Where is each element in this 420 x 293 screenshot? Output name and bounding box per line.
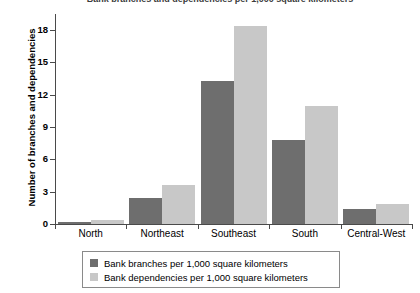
chart-title: Bank branches and dependencies per 1,000… <box>55 0 385 4</box>
y-tick-label: 0 <box>26 219 48 229</box>
bar <box>91 220 124 224</box>
y-tick-label: 12 <box>26 90 48 100</box>
y-axis-line <box>55 14 56 224</box>
legend-item-branches: Bank branches per 1,000 square kilometer… <box>90 256 332 270</box>
bar <box>272 140 305 224</box>
bar-group <box>201 14 267 224</box>
legend-label-dependencies: Bank dependencies per 1,000 square kilom… <box>104 272 308 283</box>
y-tick-label: 6 <box>26 154 48 164</box>
bar <box>162 185 195 224</box>
chart-legend: Bank branches per 1,000 square kilometer… <box>82 251 340 288</box>
y-tick-label: 18 <box>26 25 48 35</box>
y-tick <box>50 95 55 96</box>
y-tick <box>50 127 55 128</box>
bar-group <box>343 14 409 224</box>
bar <box>343 209 376 224</box>
y-tick <box>50 159 55 160</box>
x-tick-label: Northeast <box>126 228 197 239</box>
y-tick-label: 9 <box>26 122 48 132</box>
y-tick-label: 15 <box>26 57 48 67</box>
x-axis-line <box>55 224 412 225</box>
bar-group <box>129 14 195 224</box>
y-tick <box>50 192 55 193</box>
chart-figure: Bank branches and dependencies per 1,000… <box>0 0 420 293</box>
x-tick-label: South <box>269 228 340 239</box>
legend-label-branches: Bank branches per 1,000 square kilometer… <box>104 258 288 269</box>
bar <box>305 106 338 224</box>
bar-group <box>58 14 124 224</box>
y-tick-label: 3 <box>26 187 48 197</box>
bar <box>201 81 234 224</box>
bar <box>234 26 267 224</box>
x-tick <box>412 224 413 229</box>
x-tick-label: Southeast <box>198 228 269 239</box>
plot-area: 0369121518 NorthNortheastSoutheastSouthC… <box>55 14 412 224</box>
legend-item-dependencies: Bank dependencies per 1,000 square kilom… <box>90 270 332 284</box>
bar <box>129 198 162 224</box>
y-tick <box>50 62 55 63</box>
bar <box>376 204 409 224</box>
bar-group <box>272 14 338 224</box>
y-tick <box>50 30 55 31</box>
bar <box>58 222 91 224</box>
legend-swatch-branches <box>90 259 98 267</box>
x-tick-label: North <box>55 228 126 239</box>
x-tick-label: Central-West <box>341 228 412 239</box>
legend-swatch-dependencies <box>90 273 98 281</box>
